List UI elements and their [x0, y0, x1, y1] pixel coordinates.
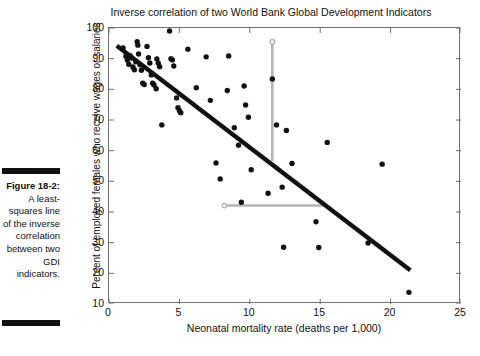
scatter-plot-svg — [109, 28, 461, 304]
y-tick-label: 30 — [80, 237, 104, 247]
scatter-point — [157, 64, 162, 69]
scatter-point — [284, 128, 289, 133]
y-tick-label: 100 — [80, 22, 104, 32]
scatter-point — [213, 160, 218, 165]
scatter-point — [225, 88, 230, 93]
y-tick-label: 50 — [80, 175, 104, 185]
axis-tick-marks — [109, 28, 461, 304]
scatter-point — [379, 161, 384, 166]
scatter-point — [249, 167, 254, 172]
scatter-point — [159, 122, 164, 127]
least-squares-fit-line — [117, 46, 411, 270]
y-tick-label: 40 — [80, 206, 104, 216]
scatter-point — [171, 63, 176, 68]
x-tick-label: 5 — [165, 306, 191, 318]
scatter-point — [289, 161, 294, 166]
x-tick-label: 25 — [447, 306, 473, 318]
scatter-point — [135, 42, 140, 47]
x-tick-label: 15 — [306, 306, 332, 318]
scatter-point — [142, 82, 147, 87]
y-tick-label: 80 — [80, 83, 104, 93]
caption-rule-bottom — [2, 320, 60, 326]
chart-title: Inverse correlation of two World Bank Gl… — [66, 6, 476, 18]
y-axis-tick-labels: 102030405060708090100 — [78, 0, 104, 356]
x-tick-label: 20 — [377, 306, 403, 318]
scatter-point — [313, 219, 318, 224]
scatter-point — [239, 199, 244, 204]
scatter-point — [232, 125, 237, 130]
scatter-point — [136, 51, 141, 56]
scatter-point — [147, 60, 152, 65]
x-axis-tick-labels: 0510152025 — [108, 306, 460, 322]
scatter-point — [236, 142, 241, 147]
scatter-point — [132, 67, 137, 72]
y-tick-label: 20 — [80, 267, 104, 277]
x-axis-title: Neonatal mortality rate (deaths per 1,00… — [108, 322, 460, 334]
scatter-point — [153, 86, 158, 91]
scatter-point — [185, 46, 190, 51]
scatter-point — [325, 140, 330, 145]
figure-caption: Figure 18-2: A least-squares line of the… — [0, 180, 60, 281]
scatter-point — [178, 110, 183, 115]
figure-caption-body: A least-squares line of the inverse corr… — [0, 193, 60, 281]
plot-area — [108, 27, 460, 303]
figure-caption-label: Figure 18-2: — [0, 180, 60, 193]
scatter-point — [194, 85, 199, 90]
scatter-point — [281, 245, 286, 250]
scatter-point — [265, 191, 270, 196]
y-tick-label: 60 — [80, 145, 104, 155]
x-tick-label: 0 — [95, 306, 121, 318]
chart-container: Inverse correlation of two World Bank Gl… — [66, 0, 480, 356]
scatter-point — [146, 55, 151, 60]
y-tick-label: 70 — [80, 114, 104, 124]
scatter-point — [246, 115, 251, 120]
scatter-point — [208, 98, 213, 103]
annotation-guides — [222, 40, 326, 208]
y-tick-label: 90 — [80, 53, 104, 63]
horizontal-guide-endpoint-marker — [222, 203, 227, 208]
scatter-point — [406, 290, 411, 295]
scatter-point — [167, 28, 172, 33]
scatter-point — [174, 95, 179, 100]
vertical-guide-endpoint-marker — [270, 40, 275, 45]
scatter-point — [241, 83, 246, 88]
scatter-point — [274, 122, 279, 127]
x-tick-label: 10 — [236, 306, 262, 318]
scatter-point — [226, 53, 231, 58]
scatter-point — [203, 54, 208, 59]
caption-rule-top — [2, 168, 60, 174]
scatter-point — [170, 57, 175, 62]
scatter-point — [270, 76, 275, 81]
scatter-point — [279, 184, 284, 189]
scatter-point — [218, 176, 223, 181]
scatter-point — [144, 44, 149, 49]
scatter-point — [243, 102, 248, 107]
scatter-point — [316, 245, 321, 250]
